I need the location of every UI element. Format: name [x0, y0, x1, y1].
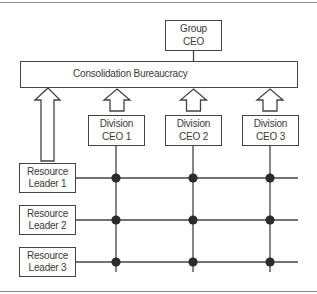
group-ceo-label: Group CEO	[180, 23, 207, 48]
intersection-dot-icon	[188, 173, 197, 182]
division-1-up-arrow-icon	[104, 89, 130, 111]
intersection-dot-icon	[188, 215, 197, 224]
group-ceo-box: Group CEO	[165, 20, 222, 51]
division-ceo-1-box: Division CEO 1	[88, 115, 145, 146]
resource-leader-1-box: Resource Leader 1	[19, 163, 76, 193]
consolidation-bureaucracy-box: Consolidation Bureaucracy	[20, 61, 298, 88]
intersection-dot-icon	[265, 215, 274, 224]
division-ceo-1-label: Division CEO 1	[100, 118, 133, 143]
resource-leader-1-label: Resource Leader 1	[27, 166, 68, 191]
intersection-dot-icon	[111, 215, 120, 224]
intersection-dot-icon	[111, 173, 120, 182]
matrix-organization-diagram: Group CEO Consolidation Bureaucracy Divi…	[0, 0, 317, 294]
intersection-dot-icon	[111, 257, 120, 266]
division-2-up-arrow-icon	[181, 89, 207, 111]
intersection-dot-icon	[188, 257, 197, 266]
intersection-dot-icon	[265, 257, 274, 266]
intersection-dot-icon	[265, 173, 274, 182]
resource-leader-3-box: Resource Leader 3	[19, 247, 76, 277]
division-ceo-2-box: Division CEO 2	[165, 115, 222, 146]
large-up-arrow-icon	[35, 88, 60, 161]
resource-leader-2-box: Resource Leader 2	[19, 205, 76, 235]
consolidation-bureaucracy-label: Consolidation Bureaucracy	[21, 68, 188, 81]
division-ceo-3-box: Division CEO 3	[242, 115, 299, 146]
division-ceo-2-label: Division CEO 2	[177, 118, 210, 143]
division-ceo-3-label: Division CEO 3	[254, 118, 287, 143]
resource-leader-3-label: Resource Leader 3	[27, 250, 68, 275]
resource-leader-2-label: Resource Leader 2	[27, 208, 68, 233]
division-3-up-arrow-icon	[257, 89, 283, 111]
